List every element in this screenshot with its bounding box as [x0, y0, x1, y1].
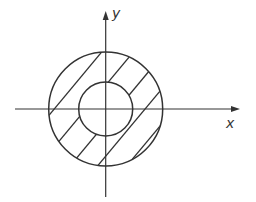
annulus-diagram: x y: [0, 0, 256, 202]
y-axis: [103, 11, 109, 197]
x-axis-label: x: [225, 115, 235, 131]
hatching: [20, 30, 200, 202]
y-axis-label: y: [111, 5, 121, 21]
x-axis-arrow-icon: [231, 106, 240, 112]
y-axis-arrow-icon: [103, 11, 109, 20]
